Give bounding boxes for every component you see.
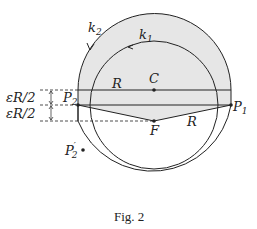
- label-P2prime: P′2: [64, 141, 78, 160]
- label-eps-upper: εR/2: [6, 90, 35, 105]
- fig2-diagram: k2 k1 C R F R P1 P2 P′2 εR/2 εR/2 Fig. 2: [0, 0, 257, 229]
- label-k2: k2: [88, 20, 102, 37]
- label-C: C: [149, 71, 159, 86]
- label-F: F: [149, 123, 160, 138]
- label-R-bottom: R: [186, 114, 197, 129]
- dimension-arrows: [49, 91, 53, 120]
- figure-caption: Fig. 2: [114, 209, 144, 224]
- label-P1: P1: [232, 99, 247, 116]
- label-eps-lower: εR/2: [6, 106, 35, 121]
- point-P2prime: [81, 148, 85, 152]
- point-C: [152, 88, 156, 92]
- label-P2: P2: [62, 90, 78, 107]
- label-R-top: R: [111, 76, 122, 91]
